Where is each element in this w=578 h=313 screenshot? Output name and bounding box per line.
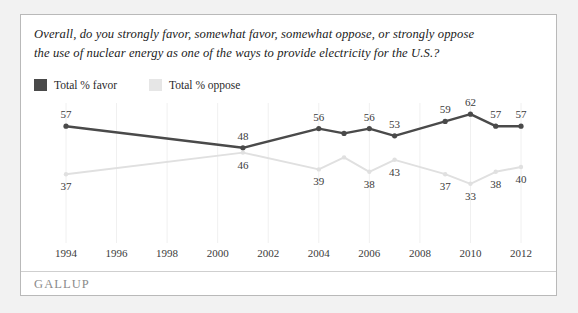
data-point [317,167,321,171]
data-label: 43 [389,166,400,178]
data-label: 46 [237,159,248,171]
x-tick-2002: 2002 [257,247,279,259]
chart-card: Overall, do you strongly favor, somewhat… [20,14,557,296]
data-point [367,126,372,131]
legend-label-favor: Total % favor [54,79,117,91]
oppose-swatch-icon [149,79,162,91]
data-point [519,165,523,169]
legend-item-favor: Total % favor [34,79,117,91]
data-label: 56 [364,111,375,123]
data-point [518,124,523,129]
title-line-1: Overall, do you strongly favor, somewhat… [34,25,546,44]
title-line-2: the use of nuclear energy as one of the … [34,44,546,63]
data-point [443,172,447,176]
legend-item-oppose: Total % oppose [149,79,240,91]
x-tick-2000: 2000 [207,247,229,259]
data-label: 57 [61,108,72,120]
x-tick-1996: 1996 [106,247,128,259]
x-tick-2006: 2006 [358,247,380,259]
data-point [468,182,472,186]
data-point [342,155,346,159]
chart-svg [21,103,556,243]
legend-label-oppose: Total % oppose [169,79,240,91]
data-label: 57 [490,108,501,120]
x-tick-2004: 2004 [308,247,330,259]
x-tick-2008: 2008 [409,247,431,259]
chart-question-title: Overall, do you strongly favor, somewhat… [34,25,546,63]
data-point [241,150,245,154]
data-point [392,133,397,138]
data-point [392,158,396,162]
data-label: 53 [389,118,400,130]
data-point [341,131,346,136]
screenshot-frame: Overall, do you strongly favor, somewhat… [0,0,578,313]
data-label: 38 [490,178,501,190]
data-point [443,119,448,124]
data-point [367,170,371,174]
footer-divider [21,271,556,272]
data-label: 38 [364,178,375,190]
data-point [494,170,498,174]
data-label: 62 [465,96,476,108]
data-label: 56 [313,111,324,123]
data-point [316,126,321,131]
data-label: 37 [440,180,451,192]
series-line-oppose [66,153,521,184]
data-label: 39 [313,175,324,187]
data-label: 33 [465,190,476,202]
gallup-brand-label: GALLUP [34,277,90,292]
data-point [63,124,68,129]
data-label: 48 [237,130,248,142]
data-label: 59 [440,103,451,115]
favor-swatch-icon [34,79,47,91]
chart-legend: Total % favor Total % oppose [34,77,272,93]
data-label: 57 [516,108,527,120]
data-point [240,145,245,150]
x-axis-ticks: 1994199619982000200220042006200820102012 [21,247,556,265]
data-point [493,124,498,129]
x-tick-1998: 1998 [156,247,178,259]
data-point [468,112,473,117]
series-line-favor [66,114,521,148]
data-point [64,172,68,176]
data-label: 37 [61,180,72,192]
x-tick-1994: 1994 [55,247,77,259]
x-tick-2012: 2012 [510,247,532,259]
x-tick-2010: 2010 [459,247,481,259]
line-chart-plot: 574856565359625757374639384337333840 [21,103,556,243]
data-label: 40 [516,173,527,185]
